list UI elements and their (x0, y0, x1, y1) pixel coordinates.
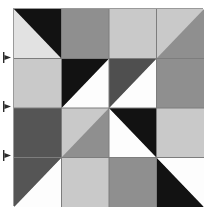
grid-cell-r3c1 (14, 108, 62, 158)
solid-light-gray (109, 9, 157, 59)
figure-canvas (0, 0, 207, 217)
grid-cell-r4c4 (157, 158, 205, 208)
right-pointing-tick-icon (1, 101, 13, 112)
marker-arrowhead (4, 104, 11, 109)
grid-outer-frame (13, 8, 203, 206)
marker-arrowhead (4, 55, 11, 60)
grid-cell-r4c1 (14, 158, 62, 208)
solid-light-gray (62, 158, 110, 208)
right-pointing-tick-icon (1, 52, 13, 63)
grid-cell-r3c4 (157, 108, 205, 158)
grid-cell-r3c3 (109, 108, 157, 158)
solid-dark-gray (14, 108, 62, 158)
grid-cell-r1c4 (157, 9, 205, 59)
grid-cell-r3c2 (62, 108, 110, 158)
quilt-grid-svg (14, 9, 204, 207)
solid-medium-gray (62, 9, 110, 59)
row-boundary-marker-3 (1, 150, 13, 161)
grid-cell-r4c3 (109, 158, 157, 208)
grid-cell-r4c2 (62, 158, 110, 208)
marker-stem (3, 52, 4, 63)
solid-light-gray (14, 59, 62, 109)
row-boundary-marker-2 (1, 101, 13, 112)
solid-medium-gray (109, 158, 157, 208)
edge-marker-gutter (0, 0, 14, 217)
marker-stem (3, 101, 4, 112)
solid-light-gray (157, 108, 205, 158)
quilt-grid (14, 9, 204, 207)
grid-cell-r2c2 (62, 59, 110, 109)
right-pointing-tick-icon (1, 150, 13, 161)
grid-cell-r2c4 (157, 59, 205, 109)
marker-arrowhead (4, 153, 11, 158)
grid-cell-r1c1 (14, 9, 62, 59)
grid-cell-r2c1 (14, 59, 62, 109)
solid-medium-gray (157, 59, 205, 109)
row-boundary-marker-1 (1, 52, 13, 63)
grid-cell-r1c3 (109, 9, 157, 59)
grid-cell-r2c3 (109, 59, 157, 109)
marker-stem (3, 150, 4, 161)
grid-cell-r1c2 (62, 9, 110, 59)
